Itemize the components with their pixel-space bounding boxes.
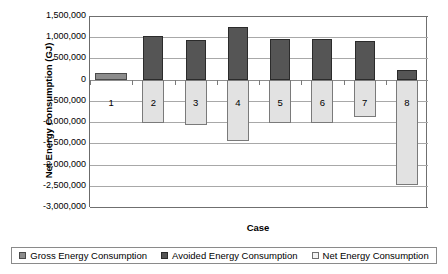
gridline bbox=[90, 186, 428, 187]
bar-net-case-4 bbox=[227, 80, 249, 142]
y-axis-tick-label: 500,000 bbox=[18, 53, 86, 62]
gridline bbox=[90, 207, 428, 208]
y-axis-tick-label: 0 bbox=[18, 75, 86, 84]
gross-swatch-icon bbox=[19, 252, 26, 259]
bar-chart: Net Energy Consumption (GJ) 1,500,0001,0… bbox=[0, 0, 448, 274]
bar-avoided-case-8 bbox=[397, 70, 417, 80]
gridline bbox=[90, 16, 428, 17]
legend-label-avoided: Avoided Energy Consumption bbox=[172, 251, 298, 261]
y-axis-tick-label: -1,000,000 bbox=[18, 117, 86, 126]
y-axis-tick-label: 1,000,000 bbox=[18, 32, 86, 41]
bar-avoided-case-2 bbox=[143, 36, 163, 79]
x-axis-title: Case bbox=[89, 222, 427, 233]
x-axis-tick-mark bbox=[386, 80, 387, 85]
legend-item-avoided: Avoided Energy Consumption bbox=[161, 251, 298, 261]
bar-net-case-8 bbox=[396, 80, 418, 185]
x-axis-category-label: 5 bbox=[260, 98, 300, 108]
x-axis-tick-mark bbox=[301, 80, 302, 85]
net-swatch-icon bbox=[312, 252, 319, 259]
bar-gross-case-1 bbox=[95, 73, 127, 80]
legend-item-gross: Gross Energy Consumption bbox=[19, 251, 147, 261]
y-axis-tick-label: 1,500,000 bbox=[18, 11, 86, 20]
bar-avoided-case-6 bbox=[312, 39, 332, 80]
x-axis-tick-mark bbox=[90, 80, 91, 85]
bar-avoided-case-7 bbox=[355, 41, 375, 79]
x-axis-tick-mark bbox=[132, 80, 133, 85]
x-axis-tick-mark bbox=[344, 80, 345, 85]
bar-avoided-case-3 bbox=[186, 40, 206, 79]
x-axis-category-label: 6 bbox=[302, 98, 342, 108]
x-axis-category-label: 8 bbox=[387, 98, 427, 108]
y-axis-tick-labels: 1,500,0001,000,000500,0000-500,000-1,000… bbox=[18, 0, 86, 274]
x-axis-tick-mark bbox=[259, 80, 260, 85]
x-axis-category-label: 2 bbox=[133, 98, 173, 108]
chart-legend: Gross Energy Consumption Avoided Energy … bbox=[11, 247, 437, 264]
legend-item-net: Net Energy Consumption bbox=[312, 251, 429, 261]
gridline bbox=[90, 122, 428, 123]
legend-label-gross: Gross Energy Consumption bbox=[30, 251, 147, 261]
y-axis-tick-label: -2,500,000 bbox=[18, 181, 86, 190]
x-axis-category-label: 7 bbox=[345, 98, 385, 108]
legend-label-net: Net Energy Consumption bbox=[323, 251, 429, 261]
bar-avoided-case-5 bbox=[270, 39, 290, 80]
y-axis-tick-label: -3,000,000 bbox=[18, 202, 86, 211]
gridline bbox=[90, 58, 428, 59]
avoided-swatch-icon bbox=[161, 252, 168, 259]
plot-right-border bbox=[426, 16, 427, 207]
plot-area: 12345678 bbox=[89, 16, 427, 207]
gridline bbox=[90, 165, 428, 166]
x-axis-category-label: 4 bbox=[218, 98, 258, 108]
y-axis-tick-label: -500,000 bbox=[18, 96, 86, 105]
x-axis-tick-mark bbox=[217, 80, 218, 85]
x-axis-category-label: 1 bbox=[91, 98, 131, 108]
gridline bbox=[90, 37, 428, 38]
gridline bbox=[90, 143, 428, 144]
x-axis-tick-mark bbox=[175, 80, 176, 85]
x-axis-category-label: 3 bbox=[176, 98, 216, 108]
y-axis-tick-label: -2,000,000 bbox=[18, 160, 86, 169]
y-axis-tick-label: -1,500,000 bbox=[18, 138, 86, 147]
bar-avoided-case-4 bbox=[228, 27, 248, 79]
